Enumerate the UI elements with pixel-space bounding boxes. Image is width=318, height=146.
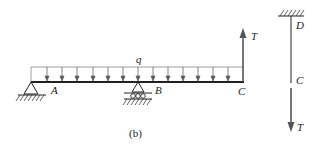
roller-support-b bbox=[123, 82, 152, 105]
beam-cable-diagram: q A B bbox=[0, 0, 318, 146]
ceiling-fixed-support bbox=[278, 10, 304, 16]
force-arrow-up-t bbox=[240, 28, 247, 82]
label-b: B bbox=[155, 84, 162, 96]
label-c-cable: C bbox=[296, 74, 304, 86]
distributed-load bbox=[31, 67, 243, 82]
label-t-up: T bbox=[251, 30, 258, 42]
load-arrows bbox=[45, 67, 230, 81]
figure-caption: (b) bbox=[129, 127, 142, 140]
label-a: A bbox=[50, 84, 58, 96]
pin-support-a bbox=[16, 82, 46, 101]
load-label-q: q bbox=[136, 53, 142, 65]
label-d: D bbox=[295, 19, 304, 31]
label-c-beam: C bbox=[238, 85, 246, 97]
force-arrow-down-t bbox=[288, 88, 295, 132]
label-t-down: T bbox=[297, 121, 304, 133]
